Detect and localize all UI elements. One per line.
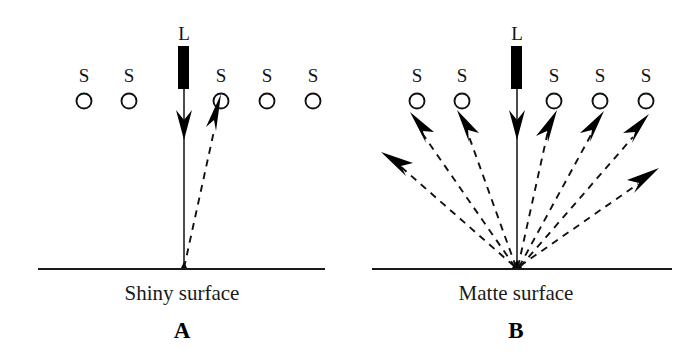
caption-b: Matte surface [459,281,574,305]
sensor-label-a-2: S [124,65,135,86]
reflection-diagram: L S S S S S Shiny surface A L [0,0,690,364]
sensor-label-b-4: S [595,65,606,86]
sensor-circle-b-5 [639,94,654,109]
sensor-circle-b-3 [547,94,562,109]
sensor-circle-a-2 [122,94,137,109]
sensor-circle-a-1 [77,94,92,109]
lamp-label-b: L [511,23,523,44]
sensor-label-b-5: S [641,65,652,86]
sensor-label-a-5: S [308,65,319,86]
sensor-circle-a-4 [260,94,275,109]
sensor-label-a-1: S [79,65,90,86]
sensor-label-a-4: S [262,65,273,86]
caption-a: Shiny surface [125,281,240,305]
light-source-lamp-b [511,46,522,89]
sensor-label-b-2: S [457,65,468,86]
sensor-circle-a-5 [306,94,321,109]
sensor-label-b-3: S [549,65,560,86]
light-source-lamp-a [178,46,189,89]
lamp-label-a: L [178,23,190,44]
sensor-circle-b-2 [455,94,470,109]
sensor-circle-b-1 [410,94,425,109]
sensor-circle-b-4 [593,94,608,109]
figure-background [0,0,690,364]
panel-letter-b: B [508,318,523,343]
sensor-label-a-3: S [216,65,227,86]
sensor-label-b-1: S [412,65,423,86]
panel-letter-a: A [174,318,191,343]
